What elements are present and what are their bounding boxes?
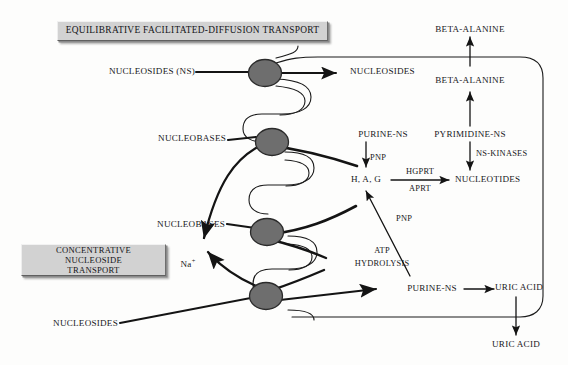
label-purine-ns-upper: PURINE-NS	[358, 130, 408, 140]
flux-atp-hydrolysis-lower	[272, 270, 324, 290]
label-nucleosides-lower-extracellular: NUCLEOSIDES	[53, 319, 118, 329]
label-atp-hydrolysis-line1: ATP	[374, 246, 390, 255]
transporter-3-concentrative-nucleobase	[251, 219, 284, 246]
transport-flux-lines	[120, 72, 376, 323]
legend-concentrative-transport: CONCENTRATIVE NUCLEOSIDE TRANSPORT	[21, 244, 166, 276]
sodium-charge: +	[192, 257, 196, 264]
label-bases-h-a-g: H, A, G	[351, 175, 381, 185]
label-sodium-ion: Na+	[181, 258, 196, 270]
label-nucleobases-lower-extracellular: NUCLEOBASES	[157, 220, 225, 230]
legend-equilibrative-transport: EQUILIBRATIVE FACILITATED-DIFFUSION TRAN…	[57, 21, 328, 41]
label-purine-ns-lower: PURINE-NS	[407, 284, 457, 294]
label-enzyme-ns-kinases: NS-KINASES	[476, 149, 527, 158]
label-enzyme-pnp-lower: PNP	[396, 214, 412, 223]
label-nucleosides-cytosolic: NUCLEOSIDES	[350, 67, 415, 77]
label-beta-alanine-intracellular: BETA-ALANINE	[435, 76, 504, 86]
flux-nucleobases-upper-in	[228, 137, 256, 140]
flux-nucleosides-lower-in	[120, 297, 256, 323]
label-uric-acid-extracellular: URIC ACID	[492, 340, 540, 350]
flux-purine-ns-lower	[280, 289, 376, 300]
transporter-1-equilibrative-nucleoside	[249, 60, 282, 87]
diagram-canvas: EQUILIBRATIVE FACILITATED-DIFFUSION TRAN…	[0, 0, 568, 365]
flux-nucleobases-lower-sweep	[272, 206, 356, 234]
label-uric-acid-intracellular: URIC ACID	[495, 283, 543, 293]
transporter-2-equilibrative-nucleobase	[256, 129, 289, 156]
legend-equilibrative-label: EQUILIBRATIVE FACILITATED-DIFFUSION TRAN…	[60, 25, 326, 36]
label-enzyme-pnp-upper: PNP	[370, 153, 386, 162]
label-atp-hydrolysis-line2: HYDROLYSIS	[355, 259, 410, 268]
label-nucleobases-upper-extracellular: NUCLEOBASES	[158, 134, 226, 144]
label-nucleotides: NUCLEOTIDES	[455, 175, 520, 185]
label-beta-alanine-extracellular: BETA-ALANINE	[435, 25, 504, 35]
label-enzyme-hgprt: HGPRT	[406, 167, 434, 176]
sodium-symbol: Na	[181, 259, 192, 269]
legend-concentrative-label: CONCENTRATIVE NUCLEOSIDE TRANSPORT	[22, 245, 165, 275]
flux-atp-hydrolysis-upper	[272, 240, 326, 258]
label-enzyme-aprt: APRT	[409, 184, 431, 193]
flux-sodium-lower	[208, 252, 256, 286]
label-pyrimidine-ns: PYRIMIDINE-NS	[434, 130, 505, 140]
label-nucleosides-ns-extracellular: NUCLEOSIDES (NS)	[109, 67, 195, 77]
transporter-4-concentrative-nucleoside	[250, 283, 283, 310]
